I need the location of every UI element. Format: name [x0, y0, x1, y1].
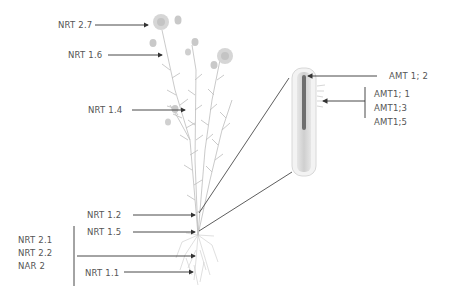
root-inset	[292, 68, 325, 176]
plant-illustration	[162, 30, 232, 285]
label-nrt11: NRT 1.1	[85, 268, 119, 278]
plant-arrows	[74, 25, 195, 286]
label-nrt14: NRT 1.4	[88, 105, 122, 115]
label-nrt21: NRT 2.1	[18, 235, 52, 245]
nitrogen-transporter-diagram: NRT 2.7 NRT 1.6 NRT 1.4 NRT 1.2 NRT 1.5 …	[0, 0, 449, 302]
bud-icon	[175, 16, 182, 25]
label-nrt16: NRT 1.6	[68, 50, 102, 60]
label-amt12: AMT 1; 2	[389, 71, 428, 81]
bud-icon	[185, 49, 191, 56]
inset-arrows	[308, 76, 377, 118]
bud-icon	[211, 61, 218, 69]
label-amt11: AMT1; 1	[374, 89, 410, 99]
bud-icon	[150, 39, 157, 47]
label-amt13: AMT1;3	[374, 103, 407, 113]
label-nrt27: NRT 2.7	[58, 20, 92, 30]
label-nar2: NAR 2	[18, 261, 45, 271]
bud-icon	[165, 119, 171, 126]
label-nrt22: NRT 2.2	[18, 248, 52, 258]
roots	[176, 233, 218, 285]
label-nrt12: NRT 1.2	[87, 210, 121, 220]
label-nrt15: NRT 1.5	[87, 227, 121, 237]
inset-connector-bottom	[199, 172, 292, 231]
bud-icon	[192, 38, 199, 46]
label-amt15: AMT1;5	[374, 117, 407, 127]
diagram-canvas	[0, 0, 449, 302]
bud-icon	[172, 105, 179, 113]
